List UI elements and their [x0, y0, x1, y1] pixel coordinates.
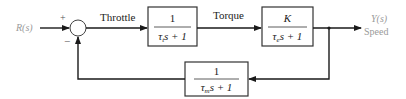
- output-label: Y(s): [371, 13, 388, 25]
- feedback-block-numerator: 1: [214, 65, 220, 77]
- throttle-block-numerator: 1: [170, 12, 176, 24]
- block-diagram: R(s) + − Throttle Torque Y(s) Speed 1 τt…: [0, 0, 406, 99]
- input-label: R(s): [15, 22, 33, 34]
- summing-junction: [70, 20, 86, 36]
- throttle-label: Throttle: [100, 11, 136, 23]
- plus-sign: +: [60, 12, 66, 23]
- minus-sign: −: [64, 35, 70, 47]
- engine-block-numerator: K: [283, 12, 292, 24]
- output-sublabel: Speed: [364, 26, 388, 37]
- torque-label: Torque: [213, 9, 244, 21]
